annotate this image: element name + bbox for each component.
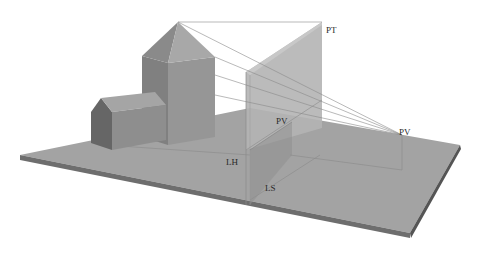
perspective-diagram: PT PV PV LH LS xyxy=(0,0,483,253)
house xyxy=(91,92,166,150)
label-pt: PT xyxy=(326,25,337,35)
ground-plane xyxy=(20,108,461,238)
label-ls: LS xyxy=(265,183,276,193)
label-pv-plane: PV xyxy=(276,116,288,126)
label-pv-eye: PV xyxy=(399,127,411,137)
diagram-canvas: PT PV PV LH LS xyxy=(0,0,483,253)
label-lh: LH xyxy=(226,157,238,167)
